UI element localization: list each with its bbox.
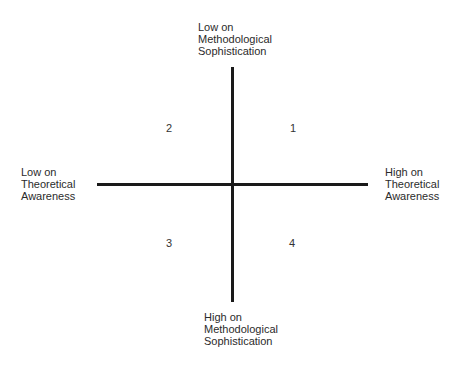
bottom-axis-label-line-2: Methodological [204,323,278,335]
left-axis-label-line-2: Theoretical [21,178,75,190]
quadrant-1-label: 1 [290,122,296,134]
left-axis-label-line-1: Low on [21,166,75,178]
right-axis-label-line-3: Awareness [385,190,439,202]
top-axis-label-line-3: Sophistication [198,45,272,57]
top-axis-label-line-2: Methodological [198,33,272,45]
bottom-axis-label-line-1: High on [204,311,278,323]
left-axis-label-line-3: Awareness [21,190,75,202]
right-axis-label: High on Theoretical Awareness [385,166,439,202]
bottom-axis-label-line-3: Sophistication [204,335,278,347]
right-axis-label-line-1: High on [385,166,439,178]
quadrant-4-label: 4 [289,237,295,249]
bottom-axis-label: High on Methodological Sophistication [204,311,278,347]
quadrant-3-label: 3 [166,237,172,249]
quadrant-2-label: 2 [166,122,172,134]
horizontal-axis-line [97,183,368,186]
right-axis-label-line-2: Theoretical [385,178,439,190]
top-axis-label: Low on Methodological Sophistication [198,21,272,57]
left-axis-label: Low on Theoretical Awareness [21,166,75,202]
top-axis-label-line-1: Low on [198,21,272,33]
